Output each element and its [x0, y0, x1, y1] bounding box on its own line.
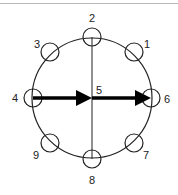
arrow-4-to-5: [33, 90, 92, 106]
label-4: 4: [12, 93, 18, 104]
label-3: 3: [34, 39, 40, 50]
node-3: [41, 43, 59, 61]
node-9: [41, 134, 59, 152]
label-2: 2: [89, 13, 95, 24]
circle-diagram: [0, 0, 178, 195]
node-7: [125, 134, 143, 152]
arrowhead-icon: [76, 90, 92, 106]
label-5: 5: [96, 85, 102, 96]
label-9: 9: [33, 150, 39, 161]
label-6: 6: [164, 94, 170, 105]
label-7: 7: [143, 150, 149, 161]
label-1: 1: [144, 39, 150, 50]
label-8: 8: [89, 175, 95, 186]
arrowhead-icon: [135, 90, 151, 106]
node-1: [125, 43, 143, 61]
